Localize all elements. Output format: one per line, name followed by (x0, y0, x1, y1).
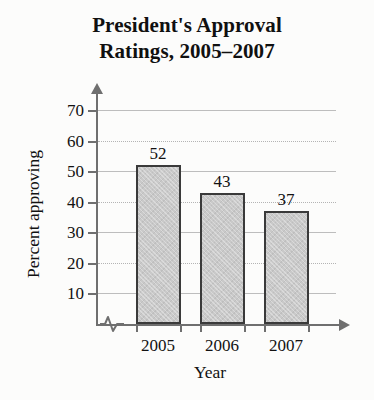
x-axis-line (96, 324, 341, 326)
y-axis-arrow-icon (91, 83, 103, 94)
x-axis-label-2006: 2006 (187, 336, 257, 356)
x-tick-right-2007 (308, 325, 310, 332)
bar-2007 (264, 211, 309, 324)
x-axis-label-2005: 2005 (123, 336, 193, 356)
x-tick-left-2007 (264, 325, 266, 332)
bar-2006 (200, 193, 245, 324)
bar-value-2005: 52 (128, 145, 188, 163)
y-axis-label-30: 30 (44, 224, 84, 241)
x-tick-left-2005 (136, 325, 138, 332)
approval-ratings-bar-chart: President's Approval Ratings, 2005–2007 … (0, 0, 374, 400)
x-axis-arrow-icon (339, 319, 350, 331)
plot-area: 70 60 50 40 30 20 10 52 43 37 2005 2006 … (0, 0, 374, 400)
y-axis-label-20: 20 (44, 255, 84, 272)
y-axis-label-10: 10 (44, 285, 84, 302)
bar-value-2007: 37 (256, 191, 316, 209)
y-axis-title: Percent approving (24, 119, 42, 309)
bar-value-2006: 43 (192, 173, 252, 191)
y-axis-label-60: 60 (44, 133, 84, 150)
y-axis-label-40: 40 (44, 194, 84, 211)
x-tick-right-2005 (180, 325, 182, 332)
y-axis-line (96, 92, 98, 326)
x-axis-title: Year (150, 362, 270, 382)
y-axis-label-50: 50 (44, 163, 84, 180)
axis-break-icon (100, 314, 124, 334)
x-axis-label-2007: 2007 (251, 336, 321, 356)
y-axis-label-70: 70 (44, 102, 84, 119)
x-tick-right-2006 (244, 325, 246, 332)
gridline-70 (98, 110, 336, 111)
x-tick-left-2006 (200, 325, 202, 332)
bar-2005 (136, 165, 181, 324)
gridline-60 (98, 141, 336, 142)
